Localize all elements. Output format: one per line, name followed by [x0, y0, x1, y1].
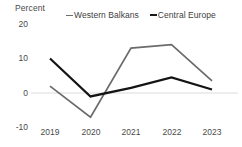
line-chart: Percent Western Balkans Central Europe 2… [0, 0, 242, 147]
series-line-central-europe [50, 59, 212, 97]
plot-area [0, 0, 242, 147]
